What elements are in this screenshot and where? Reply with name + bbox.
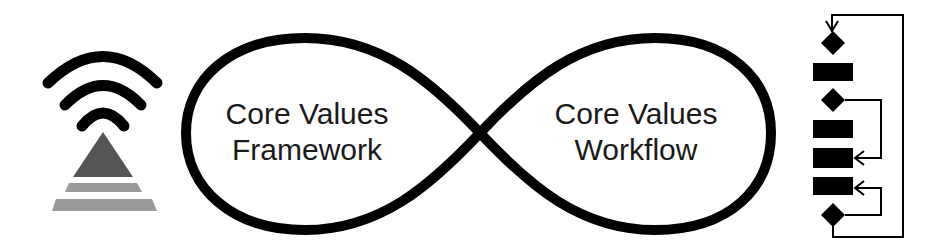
decision-diamond-1 [821, 31, 845, 55]
framework-label-line1: Core Values [226, 97, 389, 130]
workflow-flowchart-icon [813, 15, 903, 237]
outer-arc [48, 57, 157, 84]
pyramid-triangle-icon [73, 132, 133, 177]
process-box-2 [813, 120, 853, 138]
process-box-3 [813, 148, 853, 168]
inner-arc [82, 113, 124, 126]
core-values-diagram: Core Values Framework Core Values Workfl… [0, 0, 947, 252]
process-box-1 [813, 63, 853, 81]
infinity-loop: Core Values Framework Core Values Workfl… [186, 38, 771, 230]
workflow-label-line2: Workflow [575, 133, 698, 166]
decision-diamond-3 [821, 203, 845, 227]
middle-arc [65, 86, 141, 106]
process-box-4 [813, 177, 853, 195]
pyramid-stripe-1 [65, 183, 142, 192]
decision-diamond-2 [821, 88, 845, 112]
framework-label-line2: Framework [232, 133, 383, 166]
workflow-label-line1: Core Values [555, 97, 718, 130]
wifi-arcs-icon [48, 57, 157, 127]
signal-pyramid-icon [48, 57, 157, 212]
pyramid-stripe-2 [52, 199, 157, 211]
